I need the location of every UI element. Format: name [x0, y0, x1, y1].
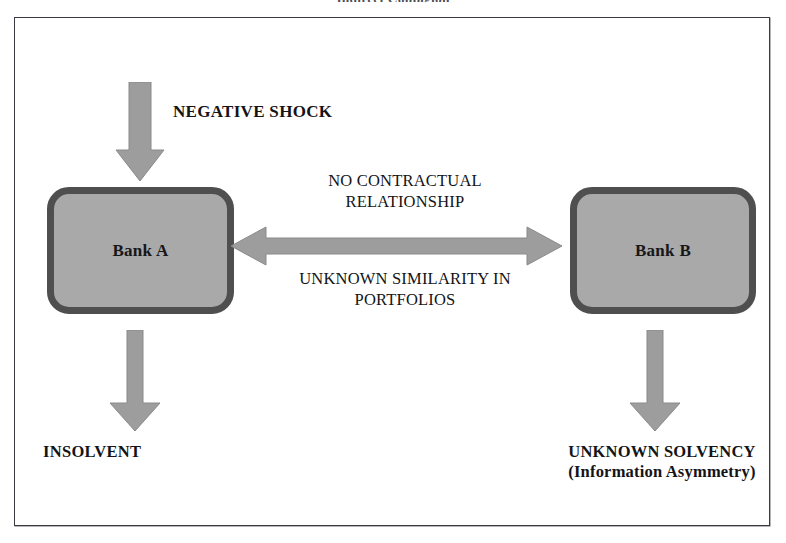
label-unknown-solvency: UNKNOWN SOLVENCY (Information Asymmetry) [546, 442, 778, 482]
figure-canvas: Indirect Contagion Bank A Bank B NEGATIV… [0, 0, 786, 543]
arrow-unknown-solvency-down-icon [628, 330, 682, 432]
arrow-shock-down-icon [115, 82, 165, 182]
node-bank-b[interactable]: Bank B [570, 187, 756, 314]
diagram-frame: Bank A Bank B NEGATIVE SHOCK NO CONTRACT… [14, 17, 770, 526]
label-insolvent: INSOLVENT [43, 442, 141, 462]
label-negative-shock: NEGATIVE SHOCK [173, 102, 332, 122]
label-unknown-similarity-in-portfolios: UNKNOWN SIMILARITY IN PORTFOLIOS [243, 268, 567, 310]
node-bank-b-label: Bank B [635, 241, 691, 261]
arrow-bidirectional-icon [231, 224, 562, 268]
arrow-insolvent-down-icon [108, 330, 162, 432]
label-no-contractual-relationship: NO CONTRACTUAL RELATIONSHIP [245, 170, 565, 212]
node-bank-a[interactable]: Bank A [47, 187, 234, 314]
node-bank-a-label: Bank A [112, 241, 168, 261]
figure-caption: Indirect Contagion [0, 0, 786, 2]
